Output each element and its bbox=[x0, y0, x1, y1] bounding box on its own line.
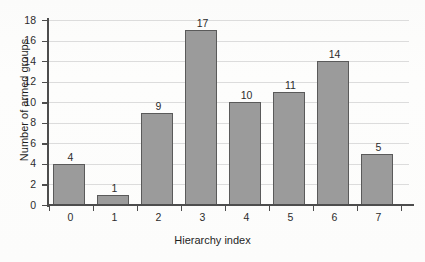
gridline-14 bbox=[49, 61, 410, 62]
bar-2[interactable] bbox=[141, 113, 173, 206]
x-tick-label-2: 2 bbox=[139, 211, 179, 223]
x-tick-label-5: 5 bbox=[271, 211, 311, 223]
y-tick-label-0: 0 bbox=[10, 200, 36, 210]
y-tick-10 bbox=[42, 102, 48, 103]
gridline-18 bbox=[49, 20, 410, 21]
y-tick-16 bbox=[42, 41, 48, 42]
gridline-16 bbox=[49, 41, 410, 42]
y-tick-4 bbox=[42, 164, 48, 165]
bar-3[interactable] bbox=[185, 30, 217, 205]
y-tick-14 bbox=[42, 61, 48, 62]
x-tick-start bbox=[49, 206, 50, 211]
bar-0[interactable] bbox=[53, 164, 85, 205]
y-tick-8 bbox=[42, 123, 48, 124]
y-tick-0 bbox=[42, 205, 48, 206]
y-axis-line bbox=[47, 18, 49, 207]
x-axis-line bbox=[47, 204, 414, 206]
bar-value-label-0: 4 bbox=[51, 151, 91, 163]
x-axis-title: Hierarchy index bbox=[0, 234, 425, 246]
x-tick-label-4: 4 bbox=[227, 211, 267, 223]
x-tick-3-4 bbox=[225, 206, 226, 211]
bar-6[interactable] bbox=[317, 61, 349, 205]
x-tick-label-0: 0 bbox=[51, 211, 91, 223]
bar-value-label-6: 14 bbox=[315, 48, 355, 60]
y-tick-2 bbox=[42, 184, 48, 185]
y-tick-12 bbox=[42, 82, 48, 83]
bar-value-label-1: 1 bbox=[95, 182, 135, 194]
x-tick-0-1 bbox=[93, 206, 94, 211]
x-tick-2-3 bbox=[181, 206, 182, 211]
x-tick-5-6 bbox=[313, 206, 314, 211]
x-tick-1-2 bbox=[137, 206, 138, 211]
bar-7[interactable] bbox=[361, 154, 393, 205]
x-tick-4-5 bbox=[269, 206, 270, 211]
y-tick-18 bbox=[42, 20, 48, 21]
x-tick-label-7: 7 bbox=[359, 211, 399, 223]
y-axis-title: Number of armed groups bbox=[18, 10, 30, 190]
y-tick-6 bbox=[42, 143, 48, 144]
x-tick-6-7 bbox=[357, 206, 358, 211]
bar-5[interactable] bbox=[273, 92, 305, 205]
bar-value-label-3: 17 bbox=[183, 17, 223, 29]
x-tick-end bbox=[401, 206, 402, 211]
bar-chart-figure: 18 16 14 12 10 8 6 4 2 0 0 1 2 3 4 5 6 7… bbox=[0, 0, 425, 262]
bar-value-label-5: 11 bbox=[271, 79, 311, 91]
gridline-12 bbox=[49, 82, 410, 83]
bar-4[interactable] bbox=[229, 102, 261, 205]
x-tick-label-6: 6 bbox=[315, 211, 355, 223]
bar-value-label-7: 5 bbox=[359, 141, 399, 153]
plot-area bbox=[49, 20, 410, 205]
x-tick-label-1: 1 bbox=[95, 211, 135, 223]
bar-value-label-2: 9 bbox=[139, 100, 179, 112]
bar-value-label-4: 10 bbox=[227, 89, 267, 101]
x-tick-label-3: 3 bbox=[183, 211, 223, 223]
